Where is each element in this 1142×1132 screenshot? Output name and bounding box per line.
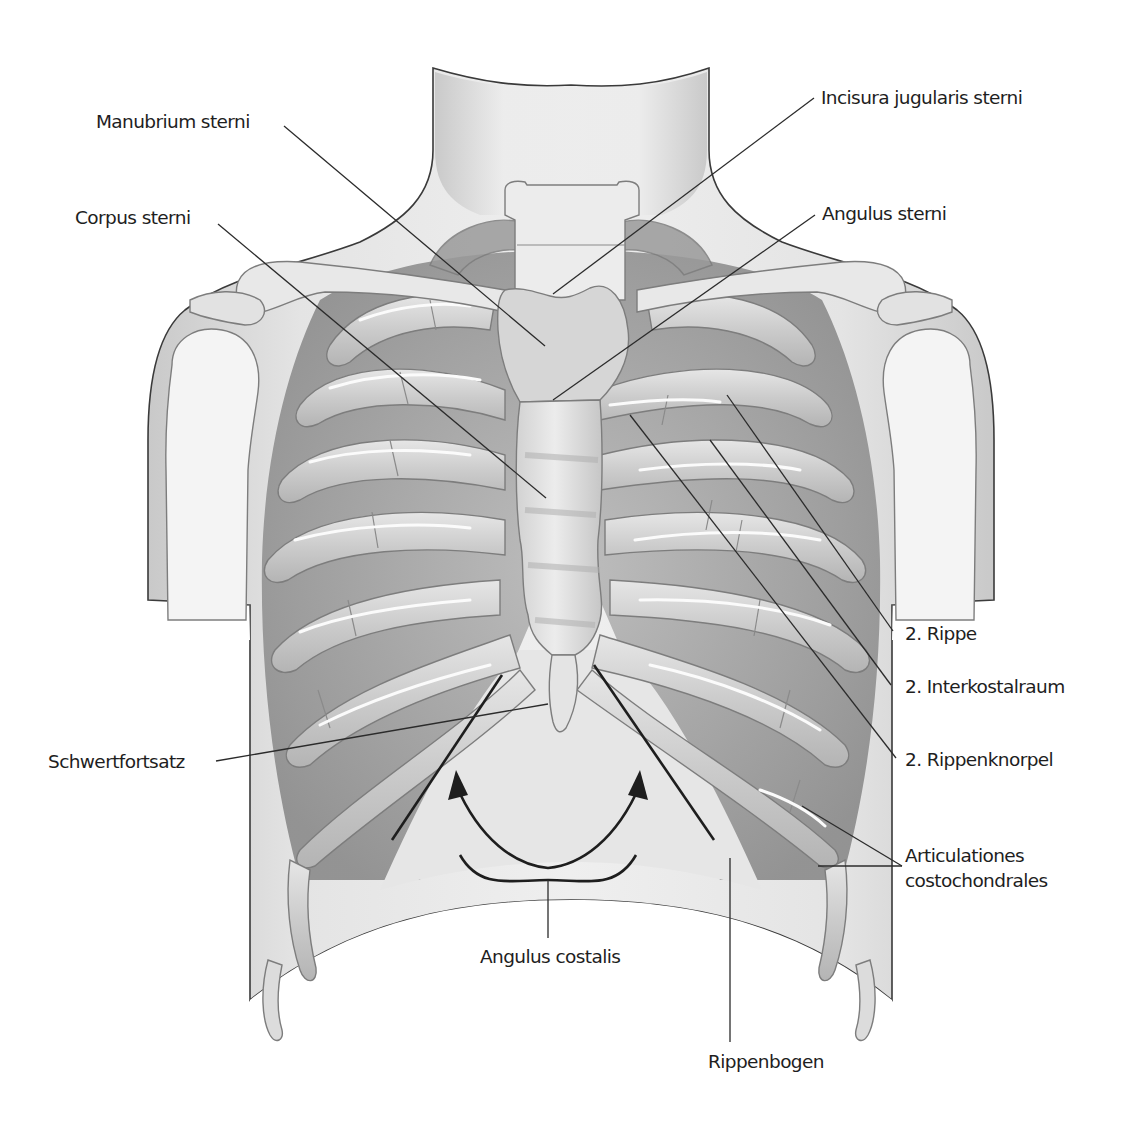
- label-2-interkostalraum: 2. Interkostalraum: [905, 676, 1065, 697]
- label-rippenbogen: Rippenbogen: [708, 1051, 824, 1072]
- label-articulationes-1: Articulationes: [905, 845, 1024, 866]
- label-schwertfortsatz: Schwertfortsatz: [48, 751, 185, 772]
- label-angulus-costalis: Angulus costalis: [480, 946, 620, 967]
- label-articulationes-2: costochondrales: [905, 870, 1048, 891]
- humerus-right: [883, 329, 976, 620]
- label-2-rippenknorpel: 2. Rippenknorpel: [905, 749, 1053, 770]
- label-incisura-jugularis: Incisura jugularis sterni: [821, 87, 1022, 108]
- label-corpus-sterni: Corpus sterni: [75, 207, 190, 228]
- vertebra: [505, 181, 639, 300]
- label-2-rippe: 2. Rippe: [905, 623, 977, 644]
- thorax-diagram: Manubrium sterni Corpus sterni Incisura …: [0, 0, 1142, 1132]
- corpus-shape: [516, 400, 602, 655]
- manubrium-shape: [498, 286, 629, 402]
- label-angulus-sterni: Angulus sterni: [822, 203, 946, 224]
- label-manubrium-sterni: Manubrium sterni: [96, 111, 250, 132]
- humerus-left: [166, 329, 259, 620]
